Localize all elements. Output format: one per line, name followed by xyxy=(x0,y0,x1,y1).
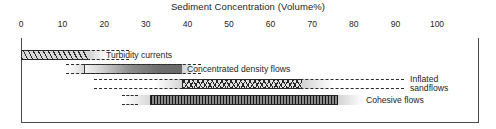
axis-tick-label: 40 xyxy=(183,19,192,29)
axis-tick-label: 20 xyxy=(99,19,108,29)
bar-inflated-dash-top xyxy=(94,79,404,80)
bar-label-inflated-sandflows-line2: sandflows xyxy=(410,84,448,93)
bar-cohesive-fade-right xyxy=(338,95,364,105)
axis-tick-label: 90 xyxy=(391,19,400,29)
bar-cohesive-flows xyxy=(122,95,382,105)
axis-tick-label: 30 xyxy=(141,19,150,29)
bar-label-cohesive-flows: Cohesive flows xyxy=(366,96,424,105)
bar-cohesive-dash-bottom xyxy=(122,104,138,105)
axis-tick-label: 10 xyxy=(58,19,67,29)
bar-cohesive-dash-top xyxy=(122,95,138,96)
bar-cohesive-core xyxy=(150,95,340,105)
bar-concentrated-dash-bottom xyxy=(66,73,201,74)
axis-tick-label: 70 xyxy=(307,19,316,29)
bar-concentrated-dash-top xyxy=(66,64,201,65)
axis-tick-label: 50 xyxy=(224,19,233,29)
chart-root: Sediment Concentration (Volume%) 0 10 20… xyxy=(0,0,496,129)
bar-inflated-sandflows xyxy=(94,79,406,89)
bar-label-turbidity-currents: Turbidity currents xyxy=(106,51,172,60)
axis-tick-label: 100 xyxy=(430,19,444,29)
axis-tick-label: 80 xyxy=(349,19,358,29)
chart-title: Sediment Concentration (Volume%) xyxy=(0,1,496,12)
axis-tick-label: 60 xyxy=(266,19,275,29)
bar-turbidity-core xyxy=(21,50,89,60)
bar-label-concentrated-density-flows: Concentrated density flows xyxy=(187,65,290,74)
bar-inflated-dash-bottom xyxy=(94,88,404,89)
plot-frame: Turbidity currents Concentrated density … xyxy=(21,38,479,123)
axis-tick-label: 0 xyxy=(19,19,24,29)
